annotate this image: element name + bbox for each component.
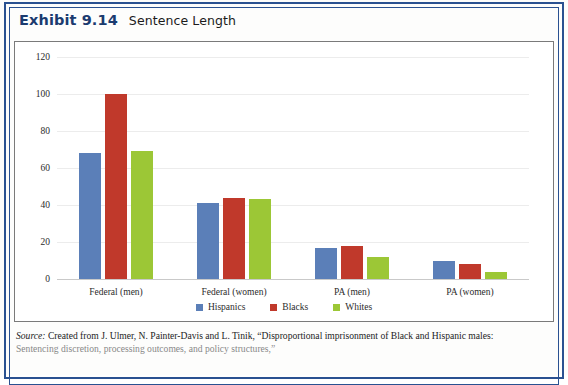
bar-group: Federal (men) (57, 57, 175, 279)
exhibit-title: Sentence Length (129, 13, 236, 28)
bar-group: PA (men) (293, 57, 411, 279)
chart-container: 020406080100120 Federal (men)Federal (wo… (14, 41, 554, 322)
source-line-1: Created from J. Ulmer, N. Painter-Davis … (48, 330, 493, 341)
bar-blacks-3 (459, 264, 481, 279)
x-axis-tick-label: PA (men) (293, 287, 411, 297)
bar-group: Federal (women) (175, 57, 293, 279)
bar-set (293, 57, 411, 279)
bar-hispanics-1 (197, 203, 219, 279)
bar-set (411, 57, 529, 279)
plot-area: 020406080100120 Federal (men)Federal (wo… (57, 57, 529, 279)
bar-whites-3 (485, 272, 507, 279)
bar-whites-0 (131, 151, 153, 279)
y-axis-tick-label: 20 (41, 237, 51, 247)
bar-whites-1 (249, 199, 271, 279)
x-axis-tick-label: Federal (women) (175, 287, 293, 297)
source-line-2: Sentencing discretion, processing outcom… (16, 342, 550, 355)
bar-set (175, 57, 293, 279)
bar-groups: Federal (men)Federal (women)PA (men)PA (… (57, 57, 529, 279)
exhibit-number: Exhibit 9.14 (19, 12, 118, 28)
exhibit-content: Exhibit 9.14 Sentence Length 02040608010… (14, 12, 554, 375)
y-axis-tick-label: 100 (36, 89, 50, 99)
bar-blacks-1 (223, 198, 245, 279)
source-note: Source: Created from J. Ulmer, N. Painte… (14, 329, 554, 355)
y-axis-tick-label: 60 (41, 163, 51, 173)
bar-hispanics-0 (79, 153, 101, 279)
chart-legend: HispanicsBlacksWhites (15, 302, 553, 312)
legend-item-blacks: Blacks (270, 302, 308, 312)
gridline: 0 (57, 279, 529, 280)
y-axis-tick-label: 0 (45, 274, 50, 284)
x-axis-tick-label: PA (women) (411, 287, 529, 297)
legend-label: Blacks (282, 302, 308, 312)
legend-label: Whites (345, 302, 372, 312)
y-axis-tick-label: 80 (41, 126, 51, 136)
legend-swatch-icon (333, 304, 340, 311)
bar-blacks-2 (341, 246, 363, 279)
bar-whites-2 (367, 257, 389, 279)
bar-hispanics-2 (315, 248, 337, 279)
legend-label: Hispanics (208, 302, 245, 312)
source-label: Source: (16, 330, 45, 341)
legend-swatch-icon (196, 304, 203, 311)
x-axis-tick-label: Federal (men) (57, 287, 175, 297)
legend-item-whites: Whites (333, 302, 372, 312)
legend-swatch-icon (270, 304, 277, 311)
bar-group: PA (women) (411, 57, 529, 279)
y-axis-tick-label: 120 (36, 52, 50, 62)
bar-hispanics-3 (433, 261, 455, 280)
exhibit-heading: Exhibit 9.14 Sentence Length (14, 12, 554, 32)
bar-blacks-0 (105, 94, 127, 279)
legend-item-hispanics: Hispanics (196, 302, 245, 312)
y-axis-tick-label: 40 (41, 200, 51, 210)
bar-set (57, 57, 175, 279)
chart-plot-wrap: 020406080100120 Federal (men)Federal (wo… (15, 42, 553, 321)
